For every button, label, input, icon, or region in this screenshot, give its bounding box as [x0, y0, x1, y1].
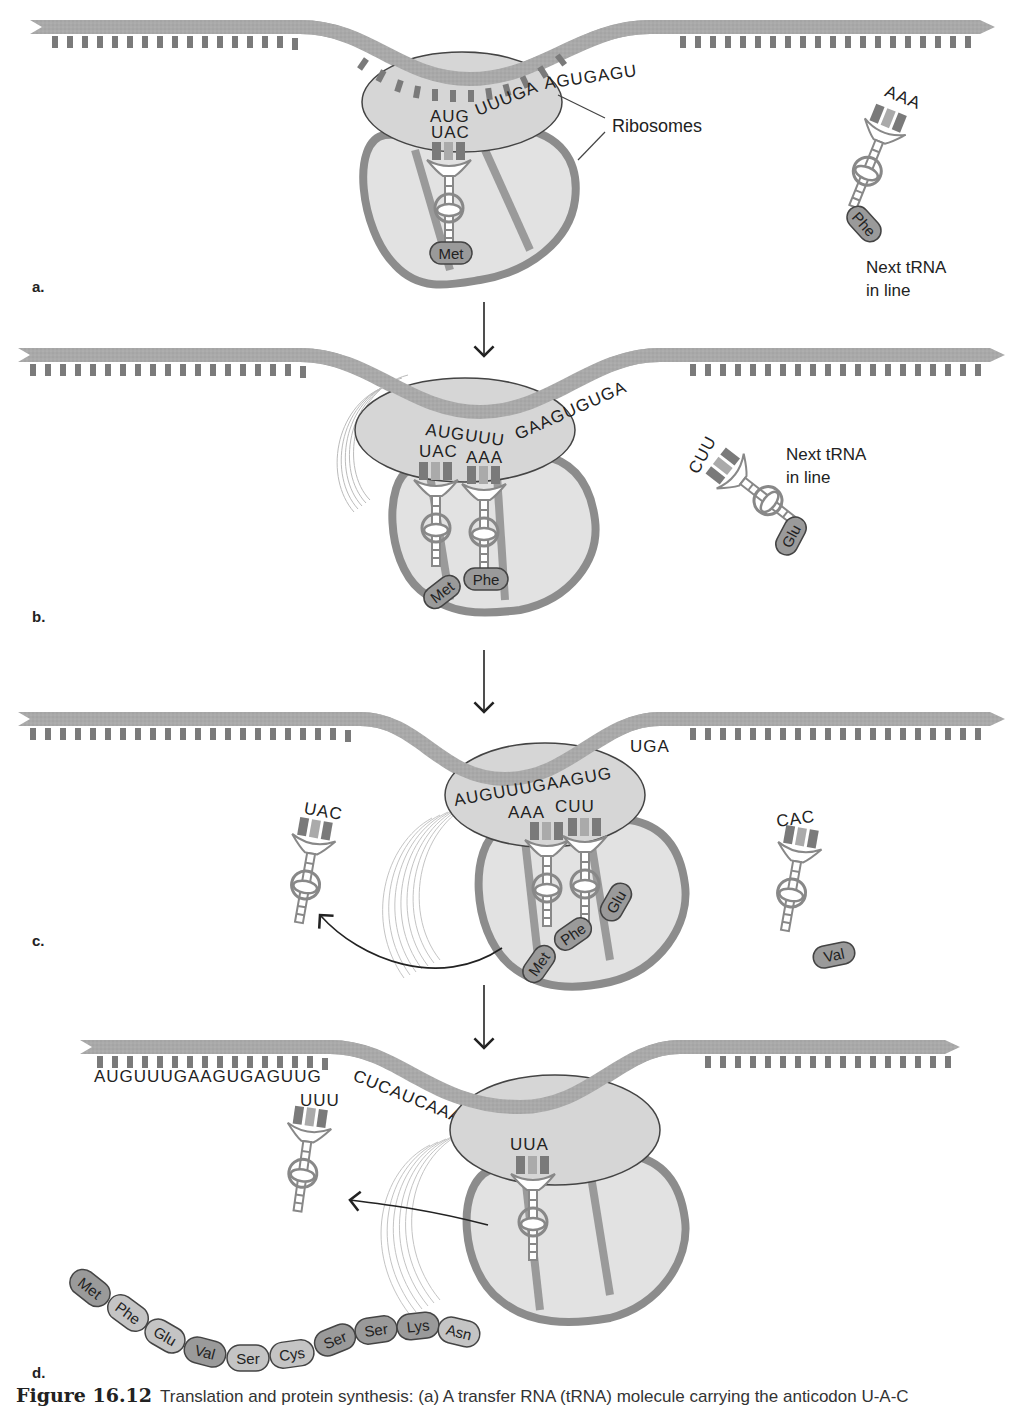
amino-acid-phe: Phe: [464, 568, 508, 590]
panel-c: AUGUUUGAAGUG UGA AAA CUU Met Phe Glu UAC…: [18, 712, 1005, 987]
next-trna-anticodon: AAA: [882, 82, 923, 113]
figure-number: Figure 16.12: [16, 1384, 152, 1406]
amino-acid-val: Val: [181, 1334, 228, 1370]
amino-acid-asn: Asn: [435, 1314, 482, 1349]
anticodon-text-b2: AAA: [466, 448, 503, 467]
amino-acid-ser: Ser: [353, 1314, 398, 1346]
panel-d: AUGUUUGAAGUGAGUUG CUCAUCAAAAA UUGA UUA U…: [32, 1040, 960, 1381]
panel-letter-b: b.: [32, 608, 45, 625]
next-trna-phe: [833, 102, 913, 215]
figure-caption: Figure 16.12Translation and protein synt…: [16, 1384, 1015, 1407]
next-trna-label: Next tRNA: [866, 258, 947, 277]
released-trna: [276, 1105, 334, 1214]
amino-acid-cys: Cys: [268, 1338, 315, 1370]
anticodon-text: UAC: [431, 123, 470, 142]
panel-letter-d: d.: [32, 1364, 45, 1381]
next-trna-label-line2: in line: [866, 281, 910, 300]
anticodon-text-c1: AAA: [508, 803, 545, 822]
next-trna-anticodon: CAC: [775, 807, 816, 831]
svg-text:Met: Met: [438, 245, 464, 262]
panel-letter-a: a.: [32, 278, 45, 295]
panel-b: AUGUUU GAAGUGUGA UAC AAA Met Phe CUU Glu…: [18, 348, 1005, 625]
codon-text-c2: UGA: [630, 737, 670, 756]
panel-a: AUG UUUGA AGUGAGU UAC Met Ribosomes AAA …: [30, 20, 995, 300]
amino-acid-met: Met: [430, 242, 472, 264]
svg-text:Ser: Ser: [236, 1350, 259, 1367]
svg-text:Cys: Cys: [278, 1344, 306, 1364]
anticodon-text-b1: UAC: [419, 442, 458, 461]
amino-acid-phe: Phe: [842, 202, 885, 246]
mrna-bases: [52, 36, 971, 50]
panel-letter-c: c.: [32, 932, 45, 949]
figure-caption-text: Translation and protein synthesis: (a) A…: [160, 1387, 909, 1406]
amino-acid-val: Val: [811, 940, 857, 970]
motion-trails: [381, 1130, 470, 1315]
anticodon-text-d1: UUA: [510, 1135, 549, 1154]
next-trna-val: [763, 824, 824, 934]
release-arrow: [320, 915, 502, 968]
ribosome-label: Ribosomes: [612, 116, 702, 136]
next-trna-label-line2: in line: [786, 468, 830, 487]
mrna-sequence-left: AUGUUUGAAGUGAGUUG: [94, 1067, 322, 1086]
svg-text:Ser: Ser: [363, 1320, 388, 1340]
amino-acid-ser: Ser: [227, 1345, 269, 1371]
amino-acid-lys: Lys: [396, 1311, 440, 1341]
svg-text:Lys: Lys: [406, 1316, 430, 1335]
released-trna-anticodon: UUU: [300, 1091, 340, 1110]
svg-text:Phe: Phe: [473, 571, 500, 588]
polypeptide-chain: Met Phe Glu Val Ser Cys Ser Ser Lys Asn: [65, 1264, 483, 1371]
anticodon-text-c2: CUU: [555, 797, 595, 816]
amino-acid-ser: Ser: [311, 1320, 360, 1360]
codon-tail-text: AGUGAGU: [543, 61, 639, 93]
next-trna-label: Next tRNA: [786, 445, 867, 464]
released-trna: [277, 816, 338, 926]
translation-diagram: AUG UUUGA AGUGAGU UAC Met Ribosomes AAA …: [0, 0, 1015, 1413]
amino-acid-glu: Glu: [772, 513, 810, 559]
